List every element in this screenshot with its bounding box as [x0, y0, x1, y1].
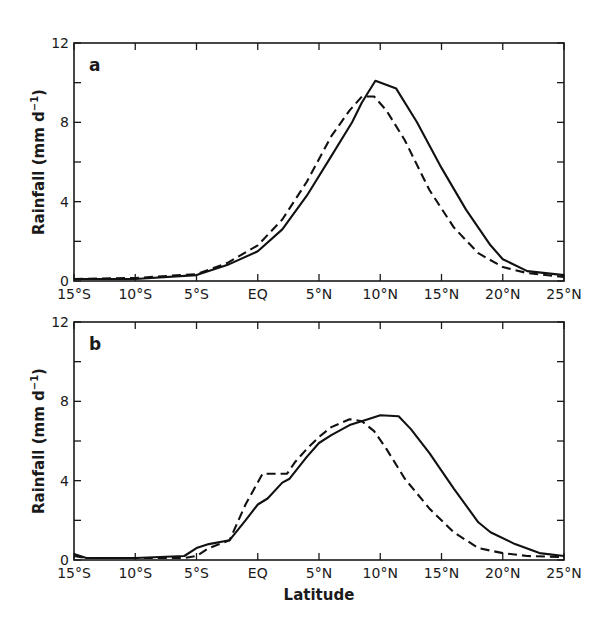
x-tick-label: 5°N [306, 286, 332, 302]
x-axis-title: Latitude [284, 586, 355, 604]
panel-a-y-tick-labels: 04812 [51, 35, 69, 289]
x-tick-label: 10°N [363, 565, 398, 581]
panel-b-ticks [74, 322, 564, 560]
x-tick-label: 5°S [184, 565, 209, 581]
panel-a-label: a [89, 55, 100, 75]
x-tick-label: 15°N [424, 286, 459, 302]
y-tick-label: 8 [60, 114, 69, 130]
panel-a-y-axis-title: Rainfall (mm d−1) [29, 89, 48, 235]
series-solid-line [74, 81, 564, 279]
series-dashed-line [74, 419, 564, 558]
x-tick-label: 15°N [424, 565, 459, 581]
y-axis-title-superscript: −1 [29, 96, 40, 111]
x-tick-label: 20°N [485, 286, 520, 302]
y-tick-label: 0 [60, 273, 69, 289]
y-axis-title-close: ) [30, 368, 48, 375]
x-tick-label: EQ [248, 286, 268, 302]
panel-b-y-axis-title: Rainfall (mm d−1) [29, 368, 48, 514]
y-tick-label: 0 [60, 552, 69, 568]
x-tick-label: EQ [248, 565, 268, 581]
y-axis-title-superscript: −1 [29, 375, 40, 390]
x-tick-label: 20°N [485, 565, 520, 581]
x-tick-label: 25°N [546, 565, 581, 581]
panel-a-x-tick-labels: 15°S10°S5°SEQ5°N10°N15°N20°N25°N [57, 286, 582, 302]
panel-b-x-tick-labels: 15°S10°S5°SEQ5°N10°N15°N20°N25°N [57, 565, 582, 581]
x-tick-label: 10°S [118, 286, 152, 302]
x-tick-label: 10°S [118, 565, 152, 581]
y-tick-label: 4 [60, 473, 69, 489]
x-tick-label: 5°N [306, 565, 332, 581]
panel-a: 15°S10°S5°SEQ5°N10°N15°N20°N25°N 04812 a… [29, 35, 582, 302]
x-tick-label: 10°N [363, 286, 398, 302]
y-tick-label: 8 [60, 393, 69, 409]
x-tick-label: 25°N [546, 286, 581, 302]
y-axis-title-text: Rainfall (mm d [30, 390, 48, 514]
panel-b-series [74, 415, 564, 558]
chart-canvas: 15°S10°S5°SEQ5°N10°N15°N20°N25°N 04812 a… [0, 0, 606, 636]
x-tick-label: 5°S [184, 286, 209, 302]
y-axis-title-text: Rainfall (mm d [30, 111, 48, 235]
panel-b-label: b [89, 334, 101, 354]
panel-a-series [74, 81, 564, 279]
y-tick-label: 12 [51, 35, 69, 51]
panel-b: 15°S10°S5°SEQ5°N10°N15°N20°N25°N 04812 b… [29, 314, 582, 581]
panel-b-frame [74, 322, 564, 560]
series-solid-line [74, 415, 564, 558]
figure: 15°S10°S5°SEQ5°N10°N15°N20°N25°N 04812 a… [0, 0, 606, 636]
series-dashed-line [74, 97, 564, 280]
y-axis-title-close: ) [30, 89, 48, 96]
y-tick-label: 4 [60, 194, 69, 210]
panel-b-y-tick-labels: 04812 [51, 314, 69, 568]
y-tick-label: 12 [51, 314, 69, 330]
